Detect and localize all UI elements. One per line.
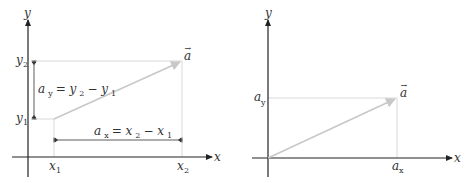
y-axis-label: y [23,6,31,20]
y2-label: y 2 [15,53,28,69]
x-axis-label: x [214,150,221,164]
vector-arrow-accent-right: → [401,81,408,90]
x1-label: x 1 [49,159,61,175]
vector-a-label: a → [184,44,192,63]
y1-label: y 1 [15,111,28,127]
x2-label: x 2 [177,159,189,175]
vector-a-arrow-right [268,99,395,158]
svg-text:y: y [15,53,23,67]
svg-text:2: 2 [23,60,28,69]
svg-text:1: 1 [23,118,28,127]
svg-text:a x =: a x = x 2 − x 1 [94,124,172,141]
ax-bracket [54,138,182,143]
vector-arrow-accent: → [185,44,192,53]
svg-text:x: x [399,166,404,175]
svg-text:x: x [49,159,56,173]
ay-bracket [32,61,37,119]
x-axis-label-right: x [454,151,461,165]
ax-label: a x [392,159,404,175]
vector-component-diagram: y x a → y 2 y 1 x 1 x 2 a [0,0,470,183]
right-panel: y x a → a y a x [252,6,461,177]
svg-text:x: x [177,159,184,173]
svg-text:y: y [15,111,23,125]
left-panel: y x a → y 2 y 1 x 1 x 2 a [12,6,221,177]
svg-text:2: 2 [184,166,189,175]
vector-a-label-right: a → [400,81,408,100]
svg-text:y: y [260,98,266,107]
y-axis-label-right: y [264,6,272,20]
svg-text:1: 1 [56,166,61,175]
ay-label: a y [254,90,266,107]
ax-equation: a x = x 2 − x 1 [94,124,172,141]
